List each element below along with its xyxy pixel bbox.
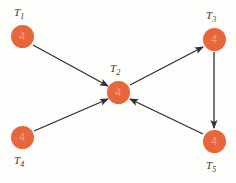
node-label-t2: T2 — [110, 62, 120, 77]
node-weight-t2: 4 — [115, 87, 121, 98]
graph-node-t2[interactable]: 4 — [107, 81, 130, 104]
node-label-t3: T3 — [206, 9, 216, 24]
node-label-t4: T4 — [14, 154, 24, 169]
node-weight-t4: 4 — [19, 132, 25, 143]
node-weight-t1: 4 — [19, 31, 25, 42]
graph-node-t1[interactable]: 4 — [11, 25, 34, 48]
graph-node-t5[interactable]: 4 — [203, 130, 226, 153]
node-weight-t5: 4 — [211, 136, 217, 147]
task-graph-diagram: 4T14T24T34T44T5 — [0, 0, 236, 183]
node-weight-t3: 4 — [211, 34, 217, 45]
graph-edge-t4-to-t2 — [34, 99, 108, 131]
graph-node-t3[interactable]: 4 — [203, 28, 226, 51]
node-label-t1: T1 — [14, 6, 24, 21]
graph-edge-t1-to-t2 — [33, 45, 108, 86]
graph-node-t4[interactable]: 4 — [11, 126, 34, 149]
node-label-t5: T5 — [206, 159, 216, 174]
graph-edge-t2-to-t3 — [130, 47, 203, 85]
graph-edge-t5-to-t2 — [130, 99, 203, 134]
